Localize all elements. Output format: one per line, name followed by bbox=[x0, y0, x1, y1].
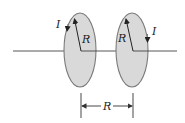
left-current-label: I bbox=[55, 18, 61, 31]
right-loop bbox=[116, 13, 148, 87]
left-radius-label: R bbox=[81, 33, 90, 46]
left-loop bbox=[64, 13, 96, 87]
right-radius-label: R bbox=[117, 32, 126, 45]
separation-label: R bbox=[102, 100, 111, 113]
helmholtz-coil-diagram: R I R I R bbox=[0, 0, 185, 123]
right-current-label: I bbox=[151, 25, 157, 38]
